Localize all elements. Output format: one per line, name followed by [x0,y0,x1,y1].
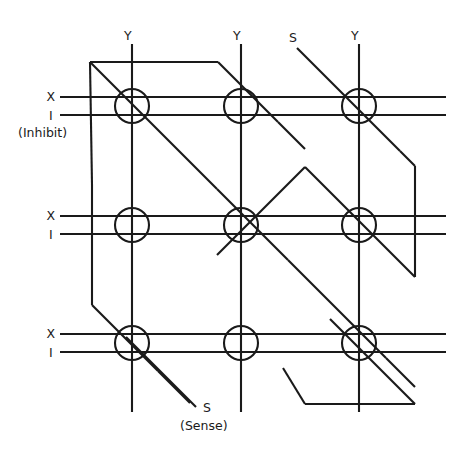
sense-wire-segment-row1-diagonal-b [278,122,305,149]
sense-caption: (Sense) [180,418,228,433]
sense-wire-segment-diagonal-through-r1c1 [90,62,217,189]
y-label-col3: Y [350,28,359,43]
core-memory-diagram: Y Y Y S X I (Inhibit) X I X I S (Sense) [0,0,458,460]
x-label-row2: X [47,208,56,223]
s-label-top: S [289,30,297,45]
inhibit-caption: (Inhibit) [18,125,67,140]
y-drive-lines-group [132,44,359,412]
sense-wire-group [90,48,415,407]
sense-wire-segment-to-right-return [400,151,415,166]
sense-wire-segment-row1-diagonal-a [218,62,278,122]
labels-group: Y Y Y S X I (Inhibit) X I X I S (Sense) [18,28,359,433]
i-label-row1: I [49,108,53,123]
sense-wire-segment-row3-diagonal-right [158,371,190,403]
sense-wire-segment-bottom-left-diagonal [283,368,305,404]
sense-wire-segment-diagonal-r2c2 [217,189,288,260]
core-rings-group [115,89,376,360]
i-label-row3: I [49,345,53,360]
x-label-row3: X [47,326,56,341]
core-plane-svg: Y Y Y S X I (Inhibit) X I X I S (Sense) [0,0,458,460]
sense-wire-segment-diagonal-r3c2 [288,260,386,358]
s-label-bottom: S [203,400,211,415]
y-label-col1: Y [123,28,132,43]
x-label-row1: X [47,89,56,104]
y-label-col2: Y [232,28,241,43]
sense-wire-segment-exit-to-s-bottom [126,337,196,407]
i-label-row2: I [49,227,53,242]
sense-wire-segment-row1-left-diagonal [90,62,92,185]
sense-wire-segment-entry-from-s-top [297,48,400,151]
sense-wire-segment-row3-diagonal-left [386,358,415,387]
